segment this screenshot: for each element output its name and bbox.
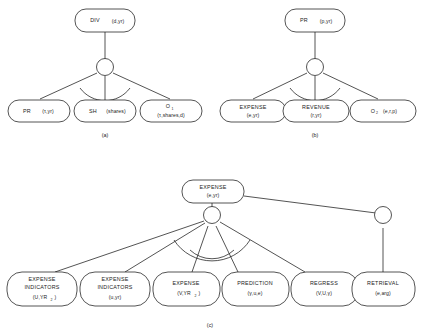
node-c-child-3-shape xyxy=(153,272,220,306)
junction-a[interactable] xyxy=(97,59,114,76)
node-a-root-shape xyxy=(75,9,135,32)
node-b-child-1-args: (e,yr) xyxy=(247,112,260,118)
node-a-child-3-sub: 1 xyxy=(172,107,174,111)
node-a-child-2-shape xyxy=(74,100,136,122)
node-c-child-6-shape xyxy=(352,272,415,306)
and-arc-c-outer xyxy=(174,240,250,261)
caption-c: (c) xyxy=(207,322,213,328)
edge-c-junction-child-2 xyxy=(125,223,205,272)
caption-a: (a) xyxy=(102,132,109,138)
node-b-root-args: (p,yr) xyxy=(320,18,333,24)
node-c-child-2-name-line1: EXPENSE xyxy=(101,276,128,282)
node-c-child-6[interactable]: RETRIEVAL (e,arg) xyxy=(352,272,415,306)
node-c-child-3-name: EXPENSE xyxy=(172,280,199,286)
node-a-child-3-args: (τ,shares,d) xyxy=(157,112,185,118)
node-b-child-3[interactable]: O 2 (e,r,p) xyxy=(350,100,416,122)
node-c-child-6-args: (e,arg) xyxy=(375,290,391,296)
node-a-child-3[interactable]: O 1 (τ,shares,d) xyxy=(140,100,202,122)
node-c-child-1-args: (U,YR xyxy=(33,294,48,300)
node-a-root-name: DIV xyxy=(90,17,100,23)
node-c-child-1[interactable]: EXPENSE INDICATORS (U,YR 2 ) xyxy=(7,272,77,306)
node-c-child-3-args: (V,YR xyxy=(177,290,191,296)
node-c-child-5[interactable]: REGRESS (V,U,γ) xyxy=(291,272,358,306)
node-a-child-2-name: SH xyxy=(89,108,97,114)
node-c-child-5-args: (V,U,γ) xyxy=(316,290,332,296)
diagram-svg: DIV (d,yr) PR (τ,yr) SH (shares) O 1 xyxy=(0,0,421,336)
figure-canvas: DIV (d,yr) PR (τ,yr) SH (shares) O 1 xyxy=(0,0,421,336)
node-c-child-1-name-line1: EXPENSE xyxy=(28,276,55,282)
node-b-child-2[interactable]: REVENUE (r,yr) xyxy=(283,100,349,122)
node-a-child-2-args: (shares) xyxy=(106,108,126,114)
node-a-child-2[interactable]: SH (shares) xyxy=(74,100,136,122)
node-c-child-3-args-tail: ) xyxy=(199,290,201,296)
node-b-child-1-name: EXPENSE xyxy=(239,104,266,110)
node-b-child-2-args: (r,yr) xyxy=(310,112,321,118)
node-c-child-4-shape xyxy=(222,272,289,306)
node-c-root-args: (e,yr) xyxy=(207,192,220,198)
node-b-child-2-name: REVENUE xyxy=(302,104,330,110)
node-c-child-4[interactable]: PREDICTION (γ,u,e) xyxy=(222,272,289,306)
junction-c-or[interactable] xyxy=(375,207,392,224)
node-c-child-4-args: (γ,u,e) xyxy=(247,290,262,296)
edge-a-junction-child-1 xyxy=(40,73,97,99)
node-b-child-3-args: (e,r,p) xyxy=(383,108,397,114)
edge-c-junction-child-3 xyxy=(192,226,208,272)
node-c-child-1-name-line2: INDICATORS xyxy=(24,284,59,290)
node-c-child-6-name: RETRIEVAL xyxy=(367,280,399,286)
diagram-c: EXPENSE (e,yr) EXPENSE INDICATORS (U,YR … xyxy=(7,180,415,328)
node-b-child-3-name: O xyxy=(371,108,375,114)
and-arc-c-inner xyxy=(190,250,234,259)
node-c-child-4-name: PREDICTION xyxy=(237,280,273,286)
edge-b-junction-child-3 xyxy=(323,73,378,99)
node-a-child-1-shape xyxy=(8,100,70,122)
node-a-root[interactable]: DIV (d,yr) xyxy=(75,9,135,32)
diagram-a: DIV (d,yr) PR (τ,yr) SH (shares) O 1 xyxy=(8,9,202,138)
node-b-child-1[interactable]: EXPENSE (e,yr) xyxy=(220,100,286,122)
node-b-root-name: PR xyxy=(300,17,308,23)
node-c-child-5-name: REGRESS xyxy=(310,280,338,286)
edge-c-junction-child-4 xyxy=(216,226,238,272)
edge-b-junction-child-1 xyxy=(253,73,307,99)
node-b-root-shape xyxy=(285,9,345,32)
node-c-child-2[interactable]: EXPENSE INDICATORS (u,yr) xyxy=(80,272,150,306)
node-c-root-name: EXPENSE xyxy=(199,184,226,190)
node-c-child-1-args-tail: ) xyxy=(55,294,57,300)
node-b-root[interactable]: PR (p,yr) xyxy=(285,9,345,32)
node-a-child-3-name: O xyxy=(166,103,170,109)
caption-b: (b) xyxy=(312,132,319,138)
edge-a-junction-child-3 xyxy=(113,73,170,99)
node-a-child-3-shape xyxy=(140,100,202,122)
node-a-child-1-name: PR xyxy=(23,108,31,114)
node-b-child-3-sub: 2 xyxy=(376,111,378,115)
node-c-child-1-sub: 2 xyxy=(51,298,53,302)
node-a-child-1[interactable]: PR (τ,yr) xyxy=(8,100,70,122)
node-c-child-3[interactable]: EXPENSE (V,YR 2 ) xyxy=(153,272,220,306)
node-a-child-1-args: (τ,yr) xyxy=(42,108,54,114)
node-c-child-2-name-line2: INDICATORS xyxy=(97,284,132,290)
junction-b[interactable] xyxy=(307,59,324,76)
edge-c-junction-child-1 xyxy=(55,221,204,272)
node-c-child-5-shape xyxy=(291,272,358,306)
node-a-root-args: (d,yr) xyxy=(112,18,125,24)
diagram-b: PR (p,yr) EXPENSE (e,yr) REVENUE (r,yr) … xyxy=(220,9,416,138)
node-c-root[interactable]: EXPENSE (e,yr) xyxy=(182,180,244,203)
edge-c-junction-child-5 xyxy=(220,222,305,272)
junction-c-and[interactable] xyxy=(204,207,221,224)
node-c-child-2-args: (u,yr) xyxy=(109,294,122,300)
edge-c-root-junction-or xyxy=(244,196,376,213)
node-c-child-3-sub: 2 xyxy=(195,294,197,298)
